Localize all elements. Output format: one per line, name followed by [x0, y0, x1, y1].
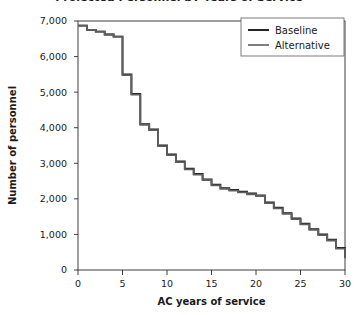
x-tick-label: 15	[205, 278, 217, 289]
y-tick-label: 6,000	[40, 51, 67, 62]
x-tick-label: 30	[339, 278, 351, 289]
x-tick-label: 25	[294, 278, 306, 289]
x-axis-title: AC years of service	[158, 296, 266, 307]
series-line-baseline	[78, 26, 345, 258]
y-tick-label: 4,000	[40, 122, 67, 133]
x-tick-label: 20	[250, 278, 262, 289]
y-tick-label: 2,000	[40, 193, 67, 204]
plot-frame	[78, 21, 345, 270]
chart-legend: BaselineAlternative	[241, 18, 344, 56]
x-tick-label: 5	[119, 278, 125, 289]
y-tick-label: 5,000	[40, 87, 67, 98]
y-axis-title: Number of personnel	[7, 86, 18, 205]
x-axis-tick-marks	[78, 270, 345, 275]
legend-label-baseline: Baseline	[275, 25, 317, 36]
y-axis-tick-marks	[74, 21, 78, 270]
chart-canvas: 01,0002,0003,0004,0005,0006,0007,000 051…	[0, 0, 358, 315]
y-tick-label: 3,000	[40, 158, 67, 169]
y-tick-label: 1,000	[40, 229, 67, 240]
x-axis-tick-labels: 051015202530	[75, 278, 351, 289]
y-tick-label: 7,000	[40, 15, 67, 26]
legend-label-alternative: Alternative	[275, 40, 330, 51]
y-axis-tick-labels: 01,0002,0003,0004,0005,0006,0007,000	[40, 15, 67, 275]
x-tick-label: 10	[161, 278, 173, 289]
x-tick-label: 0	[75, 278, 81, 289]
series-group	[78, 26, 345, 259]
chart-figure: Projected Personnel by Years of Service …	[0, 0, 358, 315]
y-tick-label: 0	[61, 264, 67, 275]
